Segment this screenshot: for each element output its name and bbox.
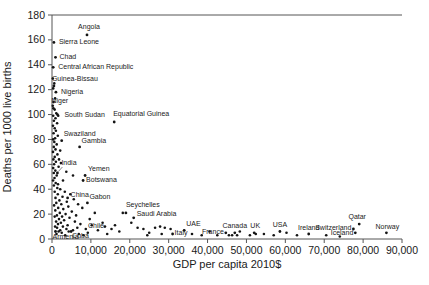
country-data-point <box>279 230 282 233</box>
data-point <box>55 161 58 164</box>
data-point <box>54 182 57 185</box>
data-point <box>59 149 62 152</box>
data-point <box>52 151 55 154</box>
data-point <box>62 225 65 228</box>
data-point <box>55 220 58 223</box>
data-point <box>160 233 163 236</box>
data-point <box>53 177 56 180</box>
data-point <box>66 200 69 203</box>
data-point <box>52 105 55 108</box>
data-point <box>325 234 328 237</box>
data-point <box>146 234 149 237</box>
data-point <box>296 234 299 237</box>
x-tick-label: 0 <box>49 244 55 256</box>
country-label: Seychelles <box>126 201 160 209</box>
data-point <box>79 223 82 226</box>
data-point <box>53 190 56 193</box>
y-tick-label: 0 <box>39 233 45 245</box>
country-label: UAE <box>186 220 201 227</box>
data-point <box>272 234 275 237</box>
data-point <box>58 158 61 161</box>
country-data-point <box>125 212 128 215</box>
data-point <box>56 153 59 156</box>
x-tick-label: 70,000 <box>308 244 340 256</box>
country-data-point <box>385 231 388 234</box>
data-point <box>81 207 84 210</box>
data-point <box>65 228 68 231</box>
country-label: Guinea-Bissau <box>52 75 98 82</box>
data-point <box>53 184 56 187</box>
data-point <box>58 199 61 202</box>
data-point <box>76 227 79 230</box>
data-point <box>122 212 125 215</box>
country-label: Angola <box>78 23 100 31</box>
data-point <box>68 217 71 220</box>
country-label: Norway <box>376 223 400 231</box>
country-data-point <box>78 146 81 149</box>
x-tick-label: 30,000 <box>153 244 185 256</box>
data-point <box>77 203 80 206</box>
y-tick-label: 40 <box>33 183 45 195</box>
data-point <box>57 134 60 137</box>
data-point <box>73 198 76 201</box>
country-data-point <box>66 197 69 200</box>
country-data-point <box>56 113 59 116</box>
data-point <box>106 233 109 236</box>
data-point <box>62 179 65 182</box>
data-point <box>154 227 157 230</box>
data-point <box>53 141 56 144</box>
data-point <box>236 234 239 237</box>
data-point <box>53 215 56 218</box>
data-point <box>74 220 77 223</box>
data-point <box>66 224 69 227</box>
data-point <box>52 167 55 170</box>
data-point <box>142 228 145 231</box>
country-data-point <box>54 56 57 59</box>
data-point <box>59 188 62 191</box>
data-point <box>55 202 58 205</box>
data-point <box>159 225 162 228</box>
data-point <box>63 219 66 222</box>
y-tick-label: 100 <box>27 108 45 120</box>
data-point <box>60 203 63 206</box>
country-data-point <box>53 41 56 44</box>
data-point <box>55 143 58 146</box>
data-point <box>57 166 60 169</box>
data-point <box>53 82 56 85</box>
country-label: Saudi Arabia <box>137 210 177 217</box>
data-point <box>52 132 55 135</box>
country-label: Chile <box>88 222 104 229</box>
data-point <box>53 163 56 166</box>
x-tick-label: 90,000 <box>386 244 418 256</box>
country-data-point <box>55 91 58 94</box>
data-point <box>56 122 59 125</box>
data-point <box>57 193 60 196</box>
country-label: UK <box>250 222 260 229</box>
data-point <box>239 230 242 233</box>
data-point <box>110 228 113 231</box>
data-point <box>59 212 62 215</box>
data-point <box>54 169 57 172</box>
country-label: Central African Republic <box>58 63 134 71</box>
country-label: Yemen <box>88 165 110 172</box>
data-point <box>148 232 151 235</box>
data-point <box>228 234 231 237</box>
country-data-point <box>253 231 256 234</box>
data-point <box>263 233 266 236</box>
country-label: Cuba <box>72 232 89 239</box>
data-point <box>130 222 133 225</box>
country-label: Equatorial Guinea <box>113 110 169 118</box>
country-label: India <box>61 159 76 166</box>
data-point <box>55 129 58 132</box>
y-tick-label: 120 <box>27 83 45 95</box>
data-point <box>61 215 64 218</box>
country-label: Sierra Leone <box>59 38 99 45</box>
country-data-point <box>82 179 85 182</box>
data-point <box>85 228 88 231</box>
country-data-point <box>354 231 357 234</box>
country-label: Italy <box>175 229 188 237</box>
y-tick-label: 80 <box>33 133 45 145</box>
data-point <box>72 174 75 177</box>
data-point <box>52 125 55 128</box>
x-tick-label: 50,000 <box>230 244 262 256</box>
